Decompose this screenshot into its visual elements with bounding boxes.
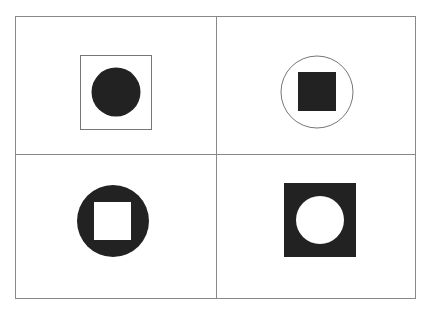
white-circle xyxy=(296,196,344,244)
panel-top-right xyxy=(281,56,353,128)
panel-bottom-left xyxy=(77,185,149,257)
panel-bottom-right xyxy=(284,183,356,257)
filled-circle xyxy=(92,68,141,117)
white-square xyxy=(94,202,131,240)
filled-square xyxy=(298,72,336,111)
shape-grid-diagram xyxy=(0,0,427,327)
panel-top-left xyxy=(81,56,152,130)
